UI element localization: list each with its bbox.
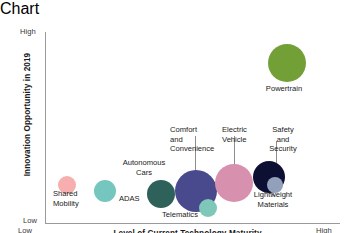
bubble-label-shared-mobility: Shared Mobility [53,189,103,208]
x-axis-line [45,223,340,224]
x-axis-title: Level of Current Technology Maturity [65,229,310,233]
bubble-label-powertrain: Powertrain [251,84,317,94]
bubble-label-lightweight-materials: Lightweight Materials [242,190,304,209]
bubble-label-telematics: Telematics [147,210,213,220]
bubble-label-safety-security: Safety and Security [259,125,307,154]
plot-area: Shared Mobility ADAS Autonomous Cars Tel… [46,32,340,223]
y-axis-high-label: High [20,27,36,36]
y-axis-title: Innovation Opportunity in 2019 [23,30,32,200]
bubble-label-autonomous-cars: Autonomous Cars [109,158,179,177]
x-axis-low-label: Low [18,226,32,233]
x-axis-high-label: High [316,226,332,233]
y-axis-low-label: Low [23,216,37,225]
bubble-chart: Innovation Opportunity in 2019 Level of … [0,18,349,233]
bubble-label-adas: ADAS [119,194,159,204]
bubble-powertrain[interactable] [268,44,306,82]
